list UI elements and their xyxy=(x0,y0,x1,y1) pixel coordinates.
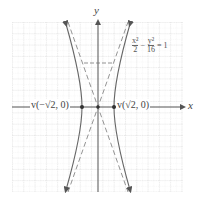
vertex-left-label: v(−√2, 0) xyxy=(30,99,70,110)
vertex-right-label: v(√2, 0) xyxy=(116,99,150,110)
eq-term2-den: 16 xyxy=(147,46,155,54)
eq-minus: − xyxy=(140,41,145,50)
x-axis-label: x xyxy=(188,99,193,111)
equation-label: x² 2 − y² 16 = 1 xyxy=(132,37,167,54)
y-axis-label: y xyxy=(94,4,99,16)
origin-point xyxy=(96,105,100,109)
eq-equals: = 1 xyxy=(157,41,168,50)
vertex-left-point xyxy=(80,105,84,109)
eq-term1-den: 2 xyxy=(133,46,137,54)
hyperbola-figure: y x v(−√2, 0) v(√2, 0) x² 2 − y² 16 = 1 xyxy=(0,0,203,204)
